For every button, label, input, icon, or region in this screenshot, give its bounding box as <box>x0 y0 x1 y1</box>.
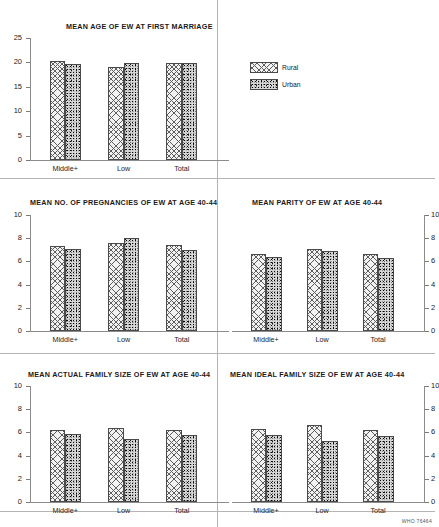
y-tick-label-mean-age-first-marriage-5: 5 <box>0 132 22 140</box>
legend-label-urban: Urban <box>282 81 301 88</box>
bar-mean-no-pregnancies-low-urban <box>124 238 140 331</box>
x-axis-mean-actual-family-size <box>30 502 229 503</box>
y-tick-label-mean-actual-family-size-2: 2 <box>0 475 22 483</box>
chart-title-mean-age-first-marriage: MEAN AGE OF EW AT FIRST MARRIAGE <box>66 22 213 31</box>
legend-swatch-urban-icon <box>250 79 278 90</box>
bar-mean-no-pregnancies-middle-urban <box>65 249 81 331</box>
y-axis-mean-actual-family-size <box>30 386 31 503</box>
y-tick-mean-no-pregnancies-2 <box>26 308 30 309</box>
y-tick-mean-ideal-family-size-8 <box>425 409 429 410</box>
x-axis-mean-ideal-family-size <box>232 502 424 503</box>
y-tick-label-mean-no-pregnancies-4: 4 <box>0 281 22 289</box>
x-category-label-mean-age-first-marriage-2: Total <box>152 165 212 172</box>
y-tick-mean-actual-family-size-10 <box>26 386 30 387</box>
y-tick-label-mean-no-pregnancies-6: 6 <box>0 257 22 265</box>
y-tick-label-mean-no-pregnancies-8: 8 <box>0 234 22 242</box>
bar-mean-parity-total-rural <box>363 254 379 331</box>
y-tick-mean-age-first-marriage-15 <box>26 87 30 88</box>
divider-col <box>217 0 218 527</box>
x-category-label-mean-parity-2: Total <box>348 336 408 343</box>
y-tick-mean-parity-0 <box>425 331 429 332</box>
x-category-label-mean-ideal-family-size-1: Low <box>292 507 352 514</box>
bar-mean-parity-middle-rural <box>251 254 267 331</box>
x-axis-mean-no-pregnancies <box>30 331 229 332</box>
x-category-label-mean-ideal-family-size-0: Middle+ <box>236 507 296 514</box>
bar-mean-age-first-marriage-total-urban <box>182 63 198 160</box>
y-tick-mean-parity-2 <box>425 308 429 309</box>
x-category-label-mean-ideal-family-size-2: Total <box>348 507 408 514</box>
bar-mean-actual-family-size-middle-urban <box>65 434 81 502</box>
bar-mean-no-pregnancies-total-urban <box>182 250 198 331</box>
bar-mean-no-pregnancies-middle-rural <box>50 246 66 331</box>
y-axis-mean-ideal-family-size <box>424 386 425 503</box>
y-tick-label-mean-ideal-family-size-6: 6 <box>431 428 435 436</box>
y-axis-mean-age-first-marriage <box>30 38 31 161</box>
bar-mean-age-first-marriage-low-urban <box>124 63 140 160</box>
figure-credit: WHO 76464 <box>402 518 432 524</box>
bar-mean-age-first-marriage-total-rural <box>166 63 182 160</box>
bar-mean-parity-low-urban <box>322 251 338 331</box>
y-tick-label-mean-actual-family-size-10: 10 <box>0 382 22 390</box>
y-tick-label-mean-parity-8: 8 <box>431 234 435 242</box>
x-category-label-mean-no-pregnancies-1: Low <box>94 336 154 343</box>
bar-mean-actual-family-size-middle-rural <box>50 430 66 502</box>
y-tick-label-mean-parity-4: 4 <box>431 281 435 289</box>
bar-mean-age-first-marriage-middle-urban <box>65 64 81 160</box>
y-tick-label-mean-parity-10: 10 <box>431 211 439 219</box>
bar-mean-actual-family-size-total-rural <box>166 430 182 502</box>
x-category-label-mean-actual-family-size-0: Middle+ <box>35 507 95 514</box>
y-axis-mean-parity <box>424 215 425 332</box>
bar-mean-ideal-family-size-low-rural <box>307 425 323 502</box>
bar-mean-age-first-marriage-low-rural <box>108 67 124 160</box>
y-tick-label-mean-no-pregnancies-2: 2 <box>0 304 22 312</box>
y-tick-mean-age-first-marriage-25 <box>26 38 30 39</box>
y-tick-mean-ideal-family-size-0 <box>425 502 429 503</box>
x-category-label-mean-actual-family-size-2: Total <box>152 507 212 514</box>
x-category-label-mean-parity-0: Middle+ <box>236 336 296 343</box>
legend-swatch-rural-icon <box>250 62 278 73</box>
y-tick-label-mean-parity-2: 2 <box>431 304 435 312</box>
y-tick-mean-age-first-marriage-10 <box>26 111 30 112</box>
y-tick-mean-parity-6 <box>425 261 429 262</box>
x-category-label-mean-age-first-marriage-0: Middle+ <box>35 165 95 172</box>
chart-title-mean-ideal-family-size: MEAN IDEAL FAMILY SIZE OF EW AT AGE 40-4… <box>230 370 404 379</box>
bar-mean-no-pregnancies-low-rural <box>108 243 124 331</box>
x-axis-mean-parity <box>232 331 424 332</box>
legend-label-rural: Rural <box>282 64 298 71</box>
bar-mean-no-pregnancies-total-rural <box>166 245 182 331</box>
y-tick-mean-actual-family-size-6 <box>26 432 30 433</box>
y-tick-mean-actual-family-size-0 <box>26 502 30 503</box>
bar-mean-ideal-family-size-total-urban <box>378 436 394 502</box>
x-category-label-mean-no-pregnancies-0: Middle+ <box>35 336 95 343</box>
y-tick-label-mean-ideal-family-size-0: 0 <box>431 498 435 506</box>
y-tick-mean-age-first-marriage-5 <box>26 136 30 137</box>
x-category-label-mean-actual-family-size-1: Low <box>94 507 154 514</box>
y-tick-label-mean-age-first-marriage-0: 0 <box>0 156 22 164</box>
chart-title-mean-parity: MEAN PARITY OF EW AT AGE 40-44 <box>252 198 382 207</box>
y-tick-label-mean-parity-0: 0 <box>431 327 435 335</box>
x-category-label-mean-no-pregnancies-2: Total <box>152 336 212 343</box>
y-tick-mean-actual-family-size-4 <box>26 456 30 457</box>
y-tick-label-mean-ideal-family-size-8: 8 <box>431 405 435 413</box>
y-tick-mean-no-pregnancies-10 <box>26 215 30 216</box>
y-tick-mean-ideal-family-size-2 <box>425 479 429 480</box>
bar-mean-actual-family-size-total-urban <box>182 435 198 502</box>
bar-mean-parity-total-urban <box>378 258 394 331</box>
y-tick-mean-actual-family-size-2 <box>26 479 30 480</box>
y-tick-label-mean-no-pregnancies-10: 10 <box>0 211 22 219</box>
y-tick-label-mean-no-pregnancies-0: 0 <box>0 327 22 335</box>
y-tick-label-mean-age-first-marriage-25: 25 <box>0 34 22 42</box>
bar-mean-ideal-family-size-total-rural <box>363 430 379 502</box>
y-tick-mean-parity-10 <box>425 215 429 216</box>
y-tick-mean-age-first-marriage-20 <box>26 62 30 63</box>
y-tick-label-mean-ideal-family-size-10: 10 <box>431 382 439 390</box>
y-tick-label-mean-parity-6: 6 <box>431 257 435 265</box>
y-tick-label-mean-ideal-family-size-4: 4 <box>431 452 435 460</box>
y-tick-label-mean-actual-family-size-8: 8 <box>0 405 22 413</box>
bar-mean-ideal-family-size-middle-urban <box>266 435 282 502</box>
y-tick-mean-ideal-family-size-6 <box>425 432 429 433</box>
y-tick-mean-parity-8 <box>425 238 429 239</box>
bar-mean-actual-family-size-low-urban <box>124 439 140 502</box>
chart-title-mean-no-pregnancies: MEAN NO. OF PREGNANCIES OF EW AT AGE 40-… <box>30 198 217 207</box>
y-tick-label-mean-age-first-marriage-15: 15 <box>0 83 22 91</box>
